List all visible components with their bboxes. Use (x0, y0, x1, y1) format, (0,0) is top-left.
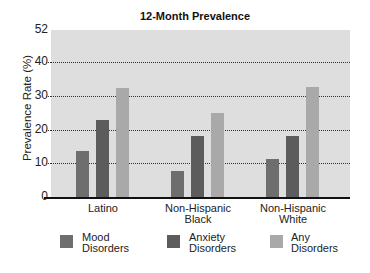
y-tick-label: 52 (30, 23, 48, 35)
y-tick-mark (46, 96, 51, 97)
y-tick-label: 40 (30, 55, 48, 67)
y-tick-label: 0 (30, 190, 48, 202)
legend-swatch (167, 235, 180, 248)
legend-label: AnyDisorders (291, 232, 338, 254)
bar-any-disorders (306, 87, 319, 197)
bar-mood-disorders (76, 151, 89, 197)
bar-any-disorders (116, 88, 129, 197)
y-tick-label: 10 (30, 156, 48, 168)
bar-mood-disorders (171, 171, 184, 197)
x-tick-label: Non-HispanicBlack (153, 203, 243, 225)
legend-swatch (60, 235, 73, 248)
x-tick-label: Non-HispanicWhite (248, 203, 338, 225)
bar-anxiety-disorders (96, 120, 109, 197)
y-tick-mark (46, 130, 51, 131)
legend-label: MoodDisorders (82, 232, 129, 254)
y-axis-label: Prevalence Rate (%) (21, 55, 33, 161)
y-tick-label: 20 (30, 123, 48, 135)
y-tick-mark (46, 62, 51, 63)
chart-title: 12-Month Prevalence (0, 10, 370, 22)
x-axis-line (44, 197, 350, 199)
bar-anxiety-disorders (286, 136, 299, 196)
x-tick-label: Latino (58, 203, 148, 214)
bar-any-disorders (211, 113, 224, 196)
bar-mood-disorders (266, 159, 279, 197)
bar-anxiety-disorders (191, 136, 204, 197)
y-tick-label: 30 (30, 89, 48, 101)
y-tick-mark (46, 163, 51, 164)
legend-swatch (270, 235, 283, 248)
legend-label: AnxietyDisorders (189, 232, 236, 254)
gridline (51, 62, 350, 63)
